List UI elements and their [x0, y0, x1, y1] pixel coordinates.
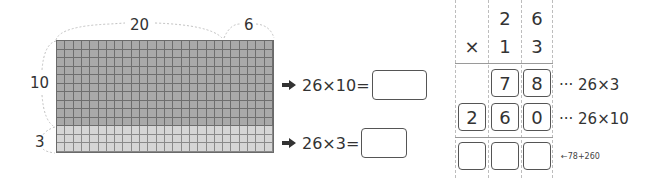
grid-cell	[74, 84, 82, 93]
grid-cell	[90, 67, 98, 76]
grid-cell	[256, 135, 264, 144]
grid-cell	[182, 101, 190, 110]
grid-cell	[190, 118, 198, 127]
grid-cell	[207, 143, 215, 152]
grid-cell	[132, 41, 140, 50]
grid-cell	[207, 101, 215, 110]
grid-cell	[157, 126, 165, 135]
grid-cell	[198, 135, 206, 144]
arrow-right-icon	[282, 80, 296, 90]
grid-cell	[107, 67, 115, 76]
grid-cell	[198, 41, 206, 50]
grid-cell	[215, 109, 223, 118]
grid-cell	[57, 67, 65, 76]
grid-cell	[107, 118, 115, 127]
grid-cell	[198, 75, 206, 84]
answer-box-26x10[interactable]	[372, 70, 427, 100]
grid-cell	[140, 41, 148, 50]
grid-cell	[57, 109, 65, 118]
grid-cell	[140, 92, 148, 101]
grid-cell	[215, 50, 223, 59]
partial2-hundreds-box[interactable]: 2	[458, 103, 486, 131]
grid-cell	[165, 67, 173, 76]
grid-cell	[215, 92, 223, 101]
partial1-tens-box[interactable]: 7	[491, 69, 519, 97]
grid-cell	[265, 84, 273, 93]
answer-box-26x3[interactable]	[361, 128, 407, 158]
grid-cell	[173, 58, 181, 67]
grid-cell	[256, 50, 264, 59]
grid-cell	[74, 58, 82, 67]
grid-cell	[157, 143, 165, 152]
partial2-ones-box[interactable]: 0	[523, 103, 551, 131]
grid-cell	[148, 109, 156, 118]
grid-cell	[99, 67, 107, 76]
partial1-note: ··· 26×3	[559, 76, 619, 94]
grid-cell	[165, 109, 173, 118]
grid-cell	[165, 135, 173, 144]
grid-cell	[148, 101, 156, 110]
grid-cell	[223, 109, 231, 118]
height-label-tens: 10	[30, 76, 49, 91]
grid-cell	[165, 75, 173, 84]
grid-cell	[74, 50, 82, 59]
result-ones-box[interactable]	[523, 142, 551, 170]
result-hundreds-box[interactable]	[458, 142, 486, 170]
grid-cell	[82, 84, 90, 93]
vertical-multiplication: 2 6 × 1 3 7 8 2 6 0	[455, 0, 553, 178]
partial2-tens-box[interactable]: 6	[491, 103, 519, 131]
grid-cell	[198, 67, 206, 76]
grid-cell	[140, 135, 148, 144]
partial1-ones-box[interactable]: 8	[523, 69, 551, 97]
grid-cell	[231, 101, 239, 110]
grid-cell	[173, 50, 181, 59]
multiplicand-ones: 6	[521, 10, 553, 28]
grid-cell	[115, 143, 123, 152]
grid-cell	[265, 126, 273, 135]
grid-cell	[190, 58, 198, 67]
grid-cell	[265, 58, 273, 67]
grid-cell	[231, 92, 239, 101]
grid-cell	[207, 67, 215, 76]
grid-cell	[265, 67, 273, 76]
grid-cell	[90, 143, 98, 152]
grid-cell	[240, 109, 248, 118]
grid-cell	[132, 143, 140, 152]
grid-cell	[215, 118, 223, 127]
grid-cell	[182, 84, 190, 93]
grid-cell	[207, 126, 215, 135]
grid-cell	[157, 67, 165, 76]
grid-cell	[215, 135, 223, 144]
grid-cell	[190, 135, 198, 144]
grid-cell	[215, 84, 223, 93]
grid-cell	[90, 50, 98, 59]
grid-cell	[215, 67, 223, 76]
grid-cell	[57, 50, 65, 59]
grid-cell	[248, 92, 256, 101]
grid-cell	[115, 58, 123, 67]
width-label-tens: 20	[130, 18, 149, 33]
grid-cell	[99, 109, 107, 118]
grid-cell	[74, 126, 82, 135]
grid-cell	[223, 41, 231, 50]
grid-cell	[173, 67, 181, 76]
grid-cell	[265, 118, 273, 127]
grid-cell	[57, 135, 65, 144]
grid-cell	[140, 118, 148, 127]
grid-cell	[123, 84, 131, 93]
grid-cell	[90, 118, 98, 127]
grid-cell	[248, 143, 256, 152]
grid-cell	[165, 143, 173, 152]
grid-cell	[132, 67, 140, 76]
grid-cell	[148, 135, 156, 144]
grid-cell	[248, 101, 256, 110]
grid-cell	[240, 118, 248, 127]
grid-cell	[223, 58, 231, 67]
grid-cell	[123, 135, 131, 144]
grid-cell	[82, 67, 90, 76]
result-tens-box[interactable]	[491, 142, 519, 170]
grid-cell	[115, 118, 123, 127]
grid-cell	[231, 126, 239, 135]
grid-cell	[82, 101, 90, 110]
grid-cell	[173, 109, 181, 118]
